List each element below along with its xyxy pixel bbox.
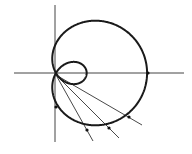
limacon-diagram	[0, 0, 192, 154]
curve-point	[85, 128, 88, 131]
curve-point	[146, 71, 149, 74]
radial-lines	[56, 75, 142, 141]
curve-point	[54, 105, 57, 108]
curve-point	[127, 115, 130, 118]
curve-point	[107, 126, 110, 129]
